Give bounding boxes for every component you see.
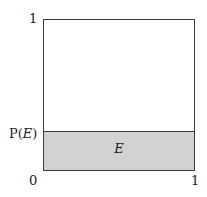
y-axis-top-label: 1 [29, 12, 37, 25]
x-axis-right-label: 1 [191, 174, 199, 187]
unit-square: E [43, 19, 195, 171]
event-region: E [44, 131, 194, 170]
origin-label: 0 [29, 174, 37, 187]
event-label: E [44, 141, 194, 156]
probability-marker-label: P(E) [9, 127, 37, 140]
